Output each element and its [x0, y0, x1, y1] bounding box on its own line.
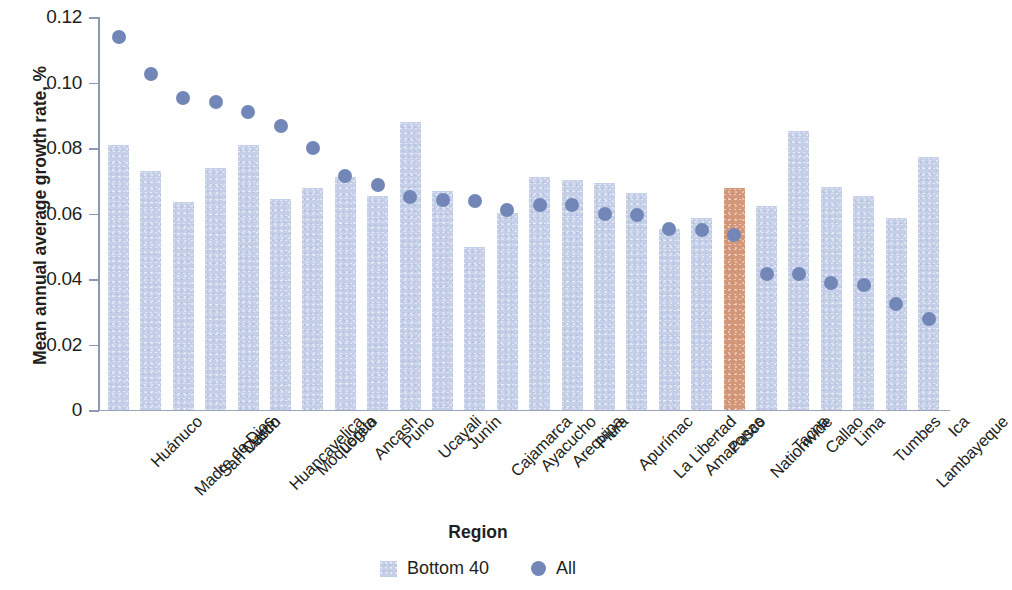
y-axis-tick-mark: [89, 214, 99, 216]
bar: [270, 199, 291, 410]
bar: [918, 157, 939, 410]
scatter-point: [533, 198, 547, 212]
bar: [140, 171, 161, 410]
y-axis-tick-label: 0.10: [20, 72, 82, 94]
y-axis-tick-label: 0: [20, 399, 82, 421]
bar: [302, 188, 323, 410]
plot-area: [98, 8, 950, 410]
bar: [367, 196, 388, 410]
bar: [724, 188, 745, 410]
bar: [562, 180, 583, 410]
scatter-point: [338, 169, 352, 183]
scatter-point: [662, 222, 676, 236]
scatter-point: [889, 297, 903, 311]
y-axis-tick-label: 0.06: [20, 203, 82, 225]
y-axis-tick-label: 0.04: [20, 268, 82, 290]
bar: [205, 168, 226, 410]
bar: [238, 145, 259, 410]
scatter-point: [792, 267, 806, 281]
y-axis-tick-labels: 00.020.040.060.080.100.12: [20, 0, 82, 590]
bar: [821, 187, 842, 410]
bar: [756, 206, 777, 410]
scatter-point: [436, 193, 450, 207]
x-axis-tick-label: Huánuco: [146, 412, 205, 471]
y-axis-tick-mark: [89, 83, 99, 85]
x-axis-tick-label: Tumbes: [890, 412, 944, 466]
legend-label: All: [556, 558, 576, 579]
scatter-point: [403, 190, 417, 204]
scatter-point: [241, 105, 255, 119]
bar: [400, 122, 421, 410]
legend-label: Bottom 40: [407, 558, 489, 579]
bar: [691, 218, 712, 410]
scatter-point: [209, 95, 223, 109]
scatter-point: [468, 194, 482, 208]
scatter-point: [306, 141, 320, 155]
y-axis-tick-mark: [89, 279, 99, 281]
scatter-point: [112, 30, 126, 44]
bar: [853, 196, 874, 410]
legend-entry: Bottom 40: [380, 558, 489, 579]
scatter-point: [598, 207, 612, 221]
y-axis-tick-mark: [89, 345, 99, 347]
scatter-point: [274, 119, 288, 133]
scatter-point: [565, 198, 579, 212]
scatter-point: [760, 267, 774, 281]
bar: [886, 218, 907, 410]
scatter-point: [695, 223, 709, 237]
y-axis-tick-label: 0.08: [20, 137, 82, 159]
circle-marker-icon: [531, 561, 546, 576]
bar: [626, 193, 647, 410]
chart-legend: Bottom 40All: [0, 558, 956, 579]
y-axis-tick-label: 0.02: [20, 334, 82, 356]
scatter-point: [857, 278, 871, 292]
y-axis-tick-mark: [89, 17, 99, 19]
bar: [108, 145, 129, 410]
x-axis-tick-labels: HuánucoMadre de DiosSan MartínCuscoHuanc…: [98, 412, 958, 522]
bar: [659, 229, 680, 410]
x-axis-tick-label: Ica: [944, 412, 973, 441]
y-axis-tick-mark: [89, 148, 99, 150]
bar: [173, 202, 194, 410]
square-swatch-icon: [380, 561, 397, 577]
x-axis-title: Region: [0, 522, 956, 543]
y-axis-tick-label: 0.12: [20, 6, 82, 28]
scatter-point: [500, 203, 514, 217]
scatter-point: [371, 178, 385, 192]
legend-entry: All: [531, 558, 576, 579]
bar: [497, 213, 518, 410]
bar: [432, 191, 453, 410]
scatter-point: [922, 312, 936, 326]
scatter-point: [824, 276, 838, 290]
scatter-point: [144, 67, 158, 81]
scatter-point: [176, 91, 190, 105]
bar: [335, 177, 356, 410]
scatter-point: [727, 228, 741, 242]
bar: [464, 247, 485, 410]
scatter-point: [630, 208, 644, 222]
